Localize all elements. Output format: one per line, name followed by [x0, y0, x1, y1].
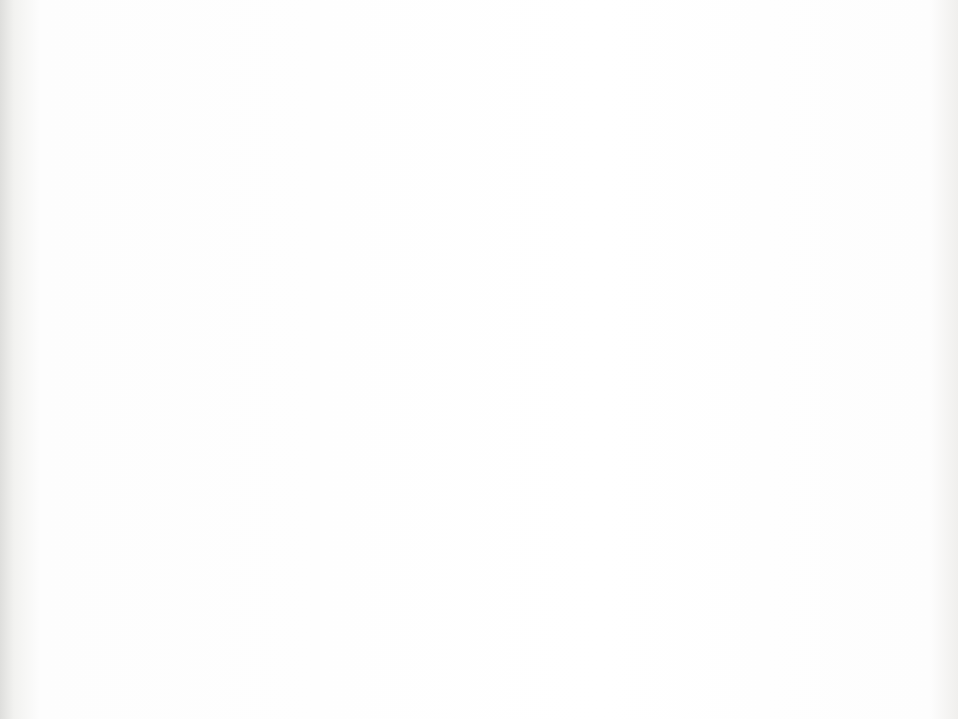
line-epsilon-to-vega	[461, 170, 782, 363]
ra-label-18h48m: 18h 48m	[295, 671, 361, 691]
dec-label-39-30: +39° 30'	[861, 176, 922, 196]
star	[714, 213, 720, 219]
vega-number-label: 3	[828, 351, 839, 373]
star	[548, 670, 553, 675]
faint-star-field	[112, 44, 924, 641]
dec-label-37-30: +37° 30'	[861, 650, 922, 670]
ra-label-18h40m: 18h 40m	[654, 674, 720, 694]
star	[500, 245, 507, 252]
star	[671, 648, 676, 653]
star	[353, 469, 359, 475]
epsilon2-superscript: 2	[475, 143, 482, 157]
ra-label-18h36m: 18h 36m	[833, 675, 899, 695]
dec-label-38-30: +38° 30'	[861, 421, 922, 441]
star-epsilon-1	[448, 152, 454, 158]
faint-star	[921, 571, 924, 574]
faint-star	[599, 619, 601, 621]
star	[270, 596, 276, 602]
star	[416, 481, 421, 486]
star	[216, 448, 221, 453]
ra-label-18h52m: 18h 52m	[111, 668, 177, 688]
dec-label-39-00: +39° 00'	[861, 294, 922, 314]
finder-circle	[341, 36, 575, 270]
star	[759, 686, 764, 691]
faint-star	[249, 149, 251, 151]
star	[637, 469, 644, 476]
star	[820, 547, 826, 553]
star	[32, 552, 38, 558]
star-epsilon-2	[446, 164, 454, 172]
epsilon1-superscript: 1	[478, 128, 485, 142]
star	[667, 430, 673, 436]
star	[732, 155, 738, 161]
zeta-greek-label: ζ	[440, 628, 447, 646]
star-chart: N E +40° 00' +39° 30' +39° 00' +38° 30' …	[0, 0, 958, 719]
star	[276, 689, 280, 693]
star	[762, 607, 768, 613]
faint-star	[837, 639, 839, 641]
faint-star	[599, 309, 601, 311]
faint-star	[112, 348, 115, 351]
star	[438, 302, 444, 308]
star	[528, 98, 534, 104]
edge-marginal-note: rcooam	[6, 647, 16, 680]
vega-greek-label: α	[802, 350, 814, 372]
ra-label-18h44m: 18h 44m	[474, 673, 540, 693]
dec-label-38-00: +38° 00'	[861, 537, 922, 557]
vega-name-label: Vega	[769, 380, 813, 402]
star	[502, 468, 508, 474]
faint-star	[339, 424, 341, 426]
faint-star	[311, 402, 313, 404]
star	[659, 49, 665, 55]
compass-east-label: E	[17, 55, 30, 78]
zeta-number-label: 6	[466, 632, 477, 654]
faint-star	[529, 357, 531, 359]
dec-label-40-00: +40° 00'	[861, 58, 922, 78]
connector-lines	[298, 170, 782, 719]
star	[176, 228, 183, 235]
star	[93, 665, 98, 670]
epsilon2-greek-label: ε	[461, 157, 469, 175]
star-vega	[778, 360, 799, 381]
line-zeta-branch-south	[427, 656, 436, 719]
star	[859, 342, 865, 348]
chart-canvas	[0, 0, 958, 719]
star	[905, 452, 910, 457]
epsilon2-number-label: 5	[489, 152, 500, 174]
star-field	[32, 49, 911, 693]
star	[787, 434, 793, 440]
compass-north-label: N	[56, 18, 70, 41]
star	[137, 399, 143, 405]
zeta-superscript: 1	[458, 621, 465, 635]
star	[464, 429, 470, 435]
star	[141, 230, 147, 236]
line-vega-to-zeta	[441, 379, 780, 650]
faint-star	[740, 44, 742, 46]
star	[57, 322, 63, 328]
star	[660, 558, 666, 564]
star-zeta-1	[430, 646, 441, 657]
